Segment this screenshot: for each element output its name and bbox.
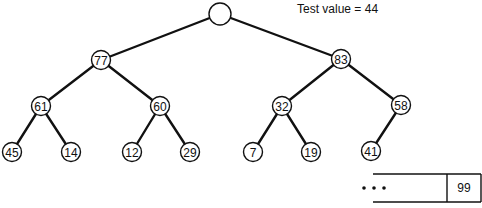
- tree-node: 58: [392, 96, 411, 115]
- tree-node-value: 60: [153, 100, 167, 114]
- tree-edge: [41, 60, 101, 106]
- tree-node-value: 29: [183, 146, 197, 160]
- tree-node-value: 7: [250, 146, 257, 160]
- tree-edge: [220, 14, 341, 59]
- tree-node: 29: [181, 143, 200, 162]
- tree-node-value: 12: [125, 146, 139, 160]
- tree-edge: [282, 59, 341, 106]
- tree-node-value: 41: [364, 145, 378, 159]
- tree-node-value: 32: [275, 100, 289, 114]
- array-segment: 99: [362, 174, 481, 202]
- tree-node-value: 83: [334, 53, 348, 67]
- tree-node: 83: [332, 50, 351, 69]
- tree-node-value: 58: [394, 99, 408, 113]
- tree-node: 45: [3, 143, 22, 162]
- tree-node-value: 19: [304, 146, 318, 160]
- tree-edges: [12, 14, 401, 152]
- tree-node: 41: [362, 142, 381, 161]
- ellipsis-icon: [362, 186, 386, 190]
- tree-node-value: 45: [5, 146, 19, 160]
- heap-tree-diagram: 7783616032584514122971941 99: [0, 0, 482, 208]
- tree-edge: [341, 59, 401, 105]
- tree-root-node: [209, 3, 231, 25]
- tree-edge: [101, 14, 220, 60]
- tree-edge: [101, 60, 160, 106]
- tree-node: 61: [32, 97, 51, 116]
- tree-node: 7: [244, 143, 263, 162]
- tree-nodes: 7783616032584514122971941: [3, 3, 411, 162]
- tree-node: 77: [92, 51, 111, 70]
- tree-node: 12: [123, 143, 142, 162]
- tree-node: 19: [302, 143, 321, 162]
- tree-node-value: 77: [94, 54, 108, 68]
- tree-node: 14: [62, 143, 81, 162]
- tree-node-value: 61: [34, 100, 48, 114]
- tree-node: 60: [151, 97, 170, 116]
- array-last-cell-value: 99: [457, 181, 471, 195]
- tree-node-value: 14: [64, 146, 78, 160]
- tree-node: 32: [273, 97, 292, 116]
